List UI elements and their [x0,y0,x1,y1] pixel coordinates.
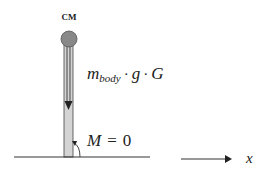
x-axis-label: x [245,150,253,166]
inverted-pendulum-diagram: CM mbody·g·G M=0 x [0,0,266,170]
moment-label: M=0 [86,131,131,150]
x-axis-arrow-icon [181,155,232,163]
center-of-mass-icon [61,31,77,47]
cm-label: CM [62,12,77,22]
gravity-force-label: mbody·g·G [87,64,163,84]
body-rod [64,44,73,157]
